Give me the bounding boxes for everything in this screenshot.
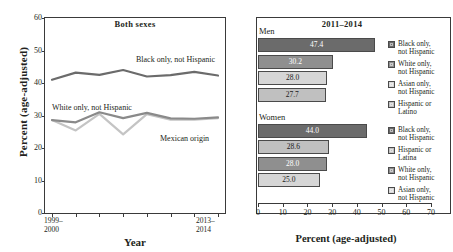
line-series-svg [45, 18, 225, 213]
bar-chart-x-axis-title: Percent (age-adjusted) [256, 233, 436, 244]
legend-label-line2: Latina [398, 154, 431, 162]
bar: 28.0 [258, 157, 327, 171]
bar-value-label: 27.7 [286, 91, 299, 99]
bar-x-tick-label: 30 [328, 208, 336, 217]
legend-label: Black only,not Hispanic [398, 40, 435, 56]
bar-value-label: 28.6 [287, 143, 300, 151]
y-tick-mark [42, 213, 45, 214]
bar-x-tick-label: 0 [256, 208, 260, 217]
bar-x-tick-label: 50 [378, 208, 386, 217]
legend-label-line2: not Hispanic [398, 68, 435, 76]
y-tick-mark [42, 116, 45, 117]
legend-swatch-icon [388, 187, 395, 194]
bar-row: 44.0 [258, 124, 388, 138]
legend-item: Asian only,not Hispanic [388, 80, 450, 96]
legend-label: Hispanic orLatina [398, 146, 431, 162]
left-panel-title: Both sexes [44, 19, 226, 29]
legend-women: Black only,not HispanicHispanic orLatina… [388, 126, 450, 206]
bar-x-tick-label: 20 [303, 208, 311, 217]
bar-x-tick-mark [283, 203, 284, 207]
bar-x-tick-mark [382, 203, 383, 207]
y-tick-mark [42, 148, 45, 149]
bar: 27.7 [258, 88, 326, 102]
bar-chart-panel: 2011–2014 Men 47.430.228.027.7 Women 44.… [236, 0, 453, 252]
y-tick-label: 60 [34, 14, 42, 22]
legend-item: White only,not Hispanic [388, 166, 450, 182]
legend-label-line2: not Hispanic [398, 48, 435, 56]
bar-value-label: 30.2 [289, 58, 302, 66]
bar-row: 28.0 [258, 157, 388, 171]
legend-item: White only,not Hispanic [388, 60, 450, 76]
legend-label-line2: not Hispanic [398, 134, 435, 142]
bar-value-label: 28.0 [286, 74, 299, 82]
bar-x-tick-mark [357, 203, 358, 207]
legend-item: Black only,not Hispanic [388, 40, 450, 56]
legend-label-line1: Asian only, [398, 80, 435, 88]
bar: 28.6 [258, 140, 329, 154]
x-tick-mark [147, 213, 148, 217]
x-tick-mark [171, 213, 172, 217]
legend-item: Black only,not Hispanic [388, 126, 450, 142]
legend-label-line2: not Hispanic [398, 194, 435, 202]
bar-value-label: 25.0 [282, 176, 295, 184]
bar-row: 27.7 [258, 88, 388, 102]
bar-groups-container: Men 47.430.228.027.7 Women 44.028.628.02… [258, 26, 388, 198]
line-chart-plot-area: 6050403020100 [44, 17, 226, 214]
x-axis-label-first: 1999– 2000 [44, 216, 63, 234]
legend-label-line2: not Hispanic [398, 174, 435, 182]
series-label-mexican-origin: Mexican origin [160, 134, 209, 143]
bar: 30.2 [258, 55, 333, 69]
line-series-3 [52, 114, 218, 134]
legend-label: Black only,not Hispanic [398, 126, 435, 142]
legend-label: Asian only,not Hispanic [398, 186, 435, 202]
group-title-women: Women [259, 112, 388, 122]
bar-row: 30.2 [258, 55, 388, 69]
bar: 44.0 [258, 124, 367, 138]
bar-x-tick-label: 10 [279, 208, 287, 217]
bar-x-tick-label: 40 [353, 208, 361, 217]
bar-row: 28.0 [258, 71, 388, 85]
x-tick-mark [123, 213, 124, 217]
legend-swatch-icon [388, 101, 395, 108]
bar-x-tick-label: 70 [427, 208, 435, 217]
line-chart-panel: Percent (age-adjusted) 6050403020100 Bot… [0, 0, 232, 252]
legend-label: White only,not Hispanic [398, 166, 435, 182]
legend-swatch-icon [388, 127, 395, 134]
y-tick-mark [42, 51, 45, 52]
legend-swatch-icon [388, 41, 395, 48]
x-axis-label-first-line2: 2000 [44, 225, 63, 234]
bar-row: 25.0 [258, 173, 388, 187]
bar-x-tick-mark [307, 203, 308, 207]
y-tick-mark [42, 181, 45, 182]
legend-label-line2: Latino [398, 108, 431, 116]
y-tick-label: 20 [34, 144, 42, 152]
legend-label: Asian only,not Hispanic [398, 80, 435, 96]
legend-item: Hispanic orLatina [388, 146, 450, 162]
group-title-men: Men [259, 26, 388, 36]
legend-label-line1: Hispanic or [398, 100, 431, 108]
legend-men: Black only,not HispanicWhite only,not Hi… [388, 40, 450, 120]
legend-label-line1: Hispanic or [398, 146, 431, 154]
bar: 47.4 [258, 38, 375, 52]
x-tick-mark [76, 213, 77, 217]
y-tick-label: 30 [34, 112, 42, 120]
legend-label: White only,not Hispanic [398, 60, 435, 76]
bar-row: 47.4 [258, 38, 388, 52]
series-label-white: White only, not Hispanic [52, 103, 132, 112]
legend-label-line2: not Hispanic [398, 88, 435, 96]
legend-item: Hispanic orLatino [388, 100, 450, 116]
legend-label-line1: Black only, [398, 126, 435, 134]
bar-x-tick-label: 60 [402, 208, 410, 217]
y-tick-label: 40 [34, 79, 42, 87]
bar: 28.0 [258, 71, 327, 85]
legend-label-line1: Asian only, [398, 186, 435, 194]
x-tick-mark [99, 213, 100, 217]
line-series-1 [52, 70, 218, 80]
x-axis-label-last-line2: 2014 [196, 225, 215, 234]
bar-value-label: 44.0 [306, 127, 319, 135]
y-tick-mark [42, 83, 45, 84]
x-axis-label-last-line1: 2013– [196, 216, 215, 225]
bar-group-men: 47.430.228.027.7 [258, 38, 388, 102]
legend-label: Hispanic orLatino [398, 100, 431, 116]
legend-label-line1: White only, [398, 166, 435, 174]
